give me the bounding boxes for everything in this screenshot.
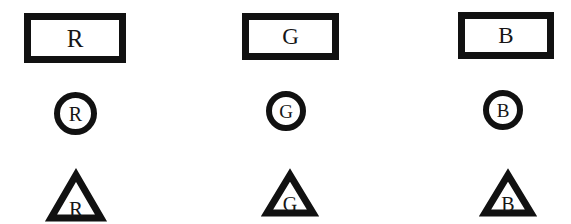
rectangle-label-g: G [282, 25, 299, 48]
symbol-rectangle-r: R [24, 13, 126, 63]
rectangle-label-b: B [498, 24, 513, 47]
rectangle-outline-b: B [458, 12, 554, 59]
figure-canvas: R G B R G B R G [0, 0, 571, 224]
rectangle-label-r: R [67, 26, 84, 51]
symbol-rectangle-b: B [458, 12, 554, 59]
circle-outline-r: R [54, 92, 97, 135]
symbol-circle-b: B [483, 90, 523, 130]
triangle-label-r: R [69, 197, 83, 221]
triangle-label-b: B [501, 193, 514, 215]
circle-label-b: B [497, 101, 510, 120]
circle-outline-b: B [483, 90, 523, 130]
symbol-triangle-g: G [262, 169, 318, 219]
symbol-circle-g: G [266, 91, 306, 131]
rectangle-outline-g: G [242, 13, 339, 60]
symbol-rectangle-g: G [242, 13, 339, 60]
symbol-triangle-r: R [46, 169, 106, 224]
rectangle-outline-r: R [24, 13, 126, 63]
circle-label-r: R [69, 104, 82, 124]
circle-outline-g: G [266, 91, 306, 131]
symbol-circle-r: R [54, 92, 97, 135]
symbol-triangle-b: B [480, 169, 536, 219]
circle-label-g: G [279, 102, 293, 121]
triangle-label-g: G [283, 193, 297, 215]
